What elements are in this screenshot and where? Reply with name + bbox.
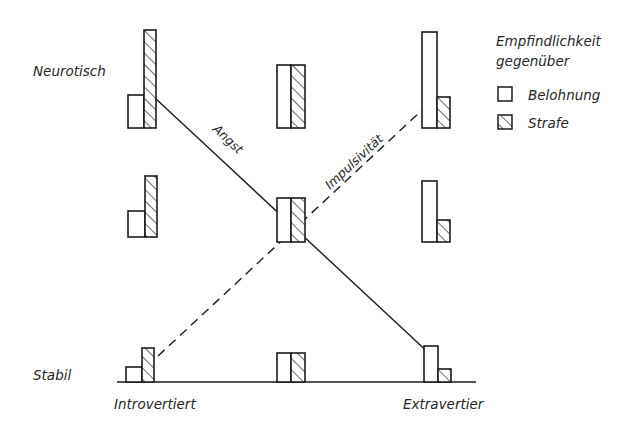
axis-label-stabil: Stabil [33,367,71,383]
bar-group-mittel-mittel [277,198,305,242]
bar-group-neurotisch-mittel [277,65,305,128]
bar-belohnung [422,32,437,128]
bar-group-neurotisch-extravertier [422,32,450,128]
bar-strafe [438,369,451,382]
bar-belohnung [126,367,142,382]
eysenck-gray-diagram: Neurotisch Stabil Introvertiert Extraver… [0,0,618,431]
bar-belohnung [128,211,145,237]
legend-label-belohnung: Belohnung [528,87,601,103]
axis-label-extravertier: Extravertier [403,396,485,412]
bar-strafe [291,198,305,242]
bar-strafe [291,65,305,128]
bar-belohnung [277,353,291,382]
legend-swatch-belohnung-white-square [498,87,512,101]
bar-strafe [142,348,154,382]
bar-strafe [437,220,450,242]
bar-group-stabil-extravertier [424,346,451,382]
bar-belohnung [277,65,291,128]
connector-label-impulsivitaet: Impulsivität [322,130,387,192]
legend-swatch-strafe-hatched-square [498,115,512,129]
bar-strafe [145,176,157,237]
bar-group-mittel-extravertier [422,181,450,242]
bar-strafe [291,353,305,382]
bar-belohnung [128,95,144,128]
legend-title-line2: gegenüber [496,53,571,69]
bar-strafe [437,97,450,128]
bar-group-stabil-mittel [277,353,305,382]
bar-belohnung [424,346,438,382]
bar-group-mittel-introvertiert [128,176,157,237]
connector-label-angst: Angst [209,121,247,158]
bar-strafe [144,30,156,128]
bar-belohnung [422,181,437,242]
axis-label-introvertiert: Introvertiert [114,396,196,412]
bar-belohnung [277,198,291,242]
legend-item-strafe: Strafe [498,115,569,131]
legend: Empfindlichkeit gegenüber Belohnung Stra… [496,33,601,131]
legend-item-belohnung: Belohnung [498,87,601,103]
legend-label-strafe: Strafe [528,115,569,131]
bar-group-neurotisch-introvertiert [128,30,156,128]
figure-canvas: Neurotisch Stabil Introvertiert Extraver… [0,0,618,431]
axis-label-neurotisch: Neurotisch [33,63,106,79]
bar-group-stabil-introvertiert [126,348,154,382]
legend-title-line1: Empfindlichkeit [496,33,601,49]
